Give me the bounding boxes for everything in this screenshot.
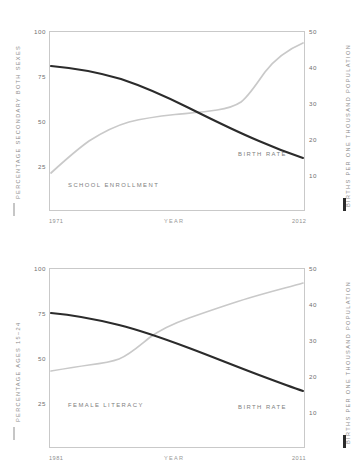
y-tick-right-4: 10 [309, 409, 333, 416]
right-axis-title: BIRTHS PER ONE THOUSAND POPULATION [345, 281, 351, 444]
y-tick-left-0: 100 [22, 28, 46, 35]
series-line-female-literacy [51, 283, 303, 371]
y-tick-left-1: 75 [22, 73, 46, 80]
series-label-birth-rate: BIRTH RATE [238, 404, 287, 410]
x-tick-end: 2011 [292, 455, 306, 461]
x-tick-start: 1971 [49, 218, 63, 224]
y-tick-left-0: 100 [22, 265, 46, 272]
y-tick-right-0: 50 [309, 28, 333, 35]
y-tick-left-3: 25 [22, 163, 46, 170]
y-tick-left-1: 75 [22, 310, 46, 317]
legend-marker-dark-icon [343, 198, 346, 211]
figure-container: 100 75 50 25 50 40 30 20 10 PERCENTAGE S… [0, 0, 359, 473]
y-tick-left-3: 25 [22, 400, 46, 407]
series-line-birth-rate-bottom [51, 313, 303, 391]
plot-lines-bottom [49, 268, 305, 448]
y-tick-right-1: 40 [309, 301, 333, 308]
series-label-school-enrollment: SCHOOL ENROLLMENT [68, 182, 159, 188]
chart-panel-bottom: 100 75 50 25 50 40 30 20 10 PERCENTAGE A… [0, 237, 359, 473]
right-axis-title: BIRTHS PER ONE THOUSAND POPULATION [345, 44, 351, 207]
y-tick-right-2: 30 [309, 100, 333, 107]
y-tick-right-0: 50 [309, 265, 333, 272]
y-tick-right-4: 10 [309, 172, 333, 179]
y-tick-left-2: 50 [22, 355, 46, 362]
left-axis-title: PERCENTAGE AGES 15–24 [15, 322, 21, 422]
legend-marker-dark-icon [343, 435, 346, 448]
y-tick-right-3: 20 [309, 136, 333, 143]
legend-marker-light-icon [13, 203, 15, 216]
y-tick-right-1: 40 [309, 64, 333, 71]
y-tick-right-3: 20 [309, 373, 333, 380]
legend-marker-light-icon [13, 427, 15, 440]
series-label-female-literacy: FEMALE LITERACY [68, 402, 144, 408]
x-axis-title: YEAR [164, 218, 184, 224]
left-axis-title: PERCENTAGE SECONDARY BOTH SEXES [15, 45, 21, 199]
series-line-birth-rate-top [51, 66, 303, 158]
x-tick-start: 1981 [49, 455, 63, 461]
y-tick-right-2: 30 [309, 337, 333, 344]
chart-panel-top: 100 75 50 25 50 40 30 20 10 PERCENTAGE S… [0, 0, 359, 236]
x-axis-title: YEAR [164, 455, 184, 461]
series-label-birth-rate: BIRTH RATE [238, 151, 287, 157]
x-tick-end: 2012 [292, 218, 306, 224]
y-tick-left-2: 50 [22, 118, 46, 125]
